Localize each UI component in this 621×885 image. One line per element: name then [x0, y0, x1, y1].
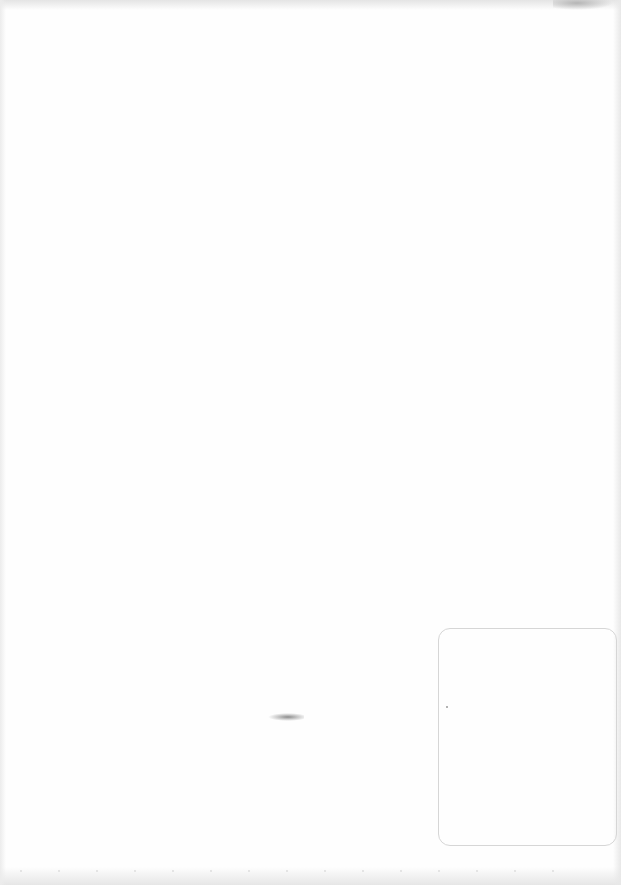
speck-mark [446, 706, 448, 708]
ink-smudge [268, 713, 304, 721]
scan-edge-left [0, 0, 6, 885]
empty-box-outline [438, 628, 617, 846]
corner-smudge [553, 0, 613, 10]
scan-edge-top [0, 0, 621, 10]
blank-page [0, 0, 621, 885]
bottom-specks [20, 870, 580, 872]
